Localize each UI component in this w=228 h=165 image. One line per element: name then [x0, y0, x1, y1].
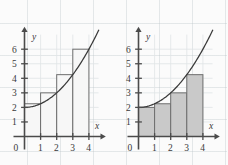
- y-tick-label-1: 1: [12, 117, 17, 127]
- y-tick-label-5: 5: [12, 59, 17, 69]
- x-tick-label-3: 3: [70, 143, 75, 153]
- bar-1-2: [170, 93, 186, 137]
- x-axis-arrow: [214, 133, 219, 139]
- x-tick-label-2: 2: [54, 143, 59, 153]
- y-tick-label-3: 3: [12, 88, 17, 98]
- y-axis-label: y: [145, 32, 151, 42]
- left-chart-svg: 01234123456xy: [0, 0, 114, 165]
- x-axis-arrow: [100, 133, 105, 139]
- x-tick-label-4: 4: [86, 143, 91, 153]
- x-tick-label-0: 0: [14, 143, 19, 153]
- y-tick-label-5: 5: [126, 59, 131, 69]
- y-tick-label-2: 2: [126, 103, 131, 113]
- right-chart-svg: 01234123456xy: [114, 0, 228, 165]
- x-tick-label-4: 4: [200, 143, 205, 153]
- y-tick-label-4: 4: [126, 74, 131, 84]
- x-axis-label: x: [94, 121, 100, 131]
- figure-panels: 01234123456xy 01234123456xy: [0, 0, 227, 165]
- y-tick-label-3: 3: [126, 88, 131, 98]
- bar-1-1: [154, 104, 170, 137]
- x-tick-label-2: 2: [168, 143, 173, 153]
- y-tick-label-4: 4: [12, 74, 17, 84]
- bar-1-3: [186, 75, 202, 137]
- y-axis-label: y: [31, 32, 37, 42]
- x-tick-label-1: 1: [38, 143, 43, 153]
- chart-panel-left: 01234123456xy: [0, 0, 114, 165]
- y-tick-label-1: 1: [126, 117, 131, 127]
- y-tick-label-6: 6: [12, 45, 17, 55]
- chart-panel-right: 01234123456xy: [114, 0, 228, 165]
- y-axis-arrow: [135, 27, 141, 32]
- y-tick-label-2: 2: [12, 103, 17, 113]
- x-tick-label-3: 3: [184, 143, 189, 153]
- y-tick-label-6: 6: [126, 45, 131, 55]
- x-axis-label: x: [208, 121, 214, 131]
- x-tick-label-1: 1: [152, 143, 157, 153]
- y-axis-arrow: [21, 27, 27, 32]
- bar-0-0: [25, 104, 41, 137]
- x-tick-label-0: 0: [127, 143, 132, 153]
